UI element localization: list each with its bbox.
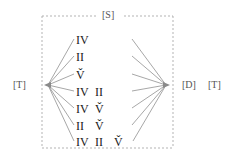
label-right-terminal: [T] [206, 79, 223, 90]
edge-row-1-to-right [132, 56, 166, 85]
label-left-terminal: [T] [11, 79, 28, 90]
edge-left-to-row-6 [48, 85, 74, 141]
dashed-boundary-box [42, 16, 173, 148]
diagram-svg [0, 0, 238, 161]
fan-nodes [44, 82, 170, 88]
edge-left-to-row-2 [48, 74, 74, 85]
label-source: [S] [100, 9, 116, 20]
fan-edges [48, 39, 166, 141]
label-destination: [D] [180, 79, 198, 90]
edge-left-to-row-0 [48, 39, 74, 85]
edge-row-2-to-right [132, 74, 166, 85]
edge-left-to-row-1 [48, 56, 74, 85]
edge-row-6-to-right [133, 85, 166, 141]
edge-row-0-to-right [132, 39, 166, 85]
figure-canvas: IVIIV̌IVIIIVV̌IIV̌IVIIV̌ [S] [T] [D] [T] [0, 0, 238, 161]
left-arrowhead-icon [44, 82, 51, 88]
right-arrowhead-icon [163, 82, 170, 88]
